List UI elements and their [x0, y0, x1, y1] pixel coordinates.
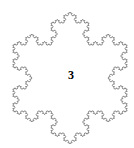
figure-label: 3 — [64, 68, 78, 82]
